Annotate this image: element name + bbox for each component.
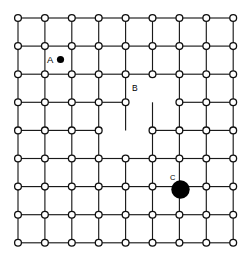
lattice-node [122, 211, 129, 218]
lattice-node [42, 99, 49, 106]
lattice-node [203, 239, 210, 246]
lattice-node [122, 183, 129, 190]
lattice-node [42, 183, 49, 190]
lattice-node [95, 99, 102, 106]
defect-label-b: B [132, 83, 138, 93]
lattice-node [176, 127, 183, 134]
substitutional-atom-c [171, 180, 189, 198]
lattice-node [95, 155, 102, 162]
lattice-node [122, 99, 129, 106]
lattice-node [122, 15, 129, 22]
lattice-node [15, 155, 22, 162]
lattice-node [176, 71, 183, 78]
lattice-node [203, 155, 210, 162]
lattice-node [176, 155, 183, 162]
defect-label-a: A [47, 54, 54, 65]
lattice-node [149, 211, 156, 218]
lattice-node [42, 239, 49, 246]
lattice-node [68, 211, 75, 218]
lattice-node [149, 239, 156, 246]
lattice-node [230, 127, 237, 134]
defect-label-c: C [170, 173, 176, 182]
lattice-node [15, 43, 22, 50]
lattice-node [95, 71, 102, 78]
lattice-node [176, 43, 183, 50]
lattice-node [68, 127, 75, 134]
lattice-node [15, 71, 22, 78]
lattice-node [95, 127, 102, 134]
lattice-node [15, 15, 22, 22]
lattice-node [230, 239, 237, 246]
lattice-node [68, 43, 75, 50]
lattice-node [68, 71, 75, 78]
lattice-node [68, 183, 75, 190]
lattice-node [176, 99, 183, 106]
interstitial-atom-a [57, 56, 64, 63]
lattice-node [95, 43, 102, 50]
lattice-node [122, 239, 129, 246]
lattice-node [68, 15, 75, 22]
lattice-node [95, 211, 102, 218]
lattice-node [122, 71, 129, 78]
lattice-node [122, 155, 129, 162]
nodes-layer [15, 15, 237, 247]
lattice-node [68, 99, 75, 106]
lattice-node [230, 211, 237, 218]
lattice-node [176, 211, 183, 218]
lattice-node [230, 155, 237, 162]
lattice-node [149, 127, 156, 134]
lattice-node [15, 239, 22, 246]
lattice-node [42, 127, 49, 134]
lattice-node [149, 71, 156, 78]
lattice-node [15, 127, 22, 134]
lattice-node [230, 43, 237, 50]
bonds-layer [18, 18, 233, 243]
lattice-node [122, 43, 129, 50]
lattice-node [42, 71, 49, 78]
lattice-node [95, 15, 102, 22]
lattice-node [68, 239, 75, 246]
lattice-node [203, 43, 210, 50]
lattice-node [230, 183, 237, 190]
lattice-node [95, 239, 102, 246]
lattice-node [15, 211, 22, 218]
lattice-node [203, 183, 210, 190]
lattice-node [203, 211, 210, 218]
lattice-node [68, 155, 75, 162]
lattice-node [15, 99, 22, 106]
lattice-node [176, 15, 183, 22]
lattice-node [203, 127, 210, 134]
lattice-node [149, 15, 156, 22]
lattice-node [42, 211, 49, 218]
lattice-node [203, 99, 210, 106]
lattice-figure: ABC [0, 0, 250, 264]
lattice-node [42, 15, 49, 22]
lattice-node [203, 71, 210, 78]
lattice-node [15, 183, 22, 190]
lattice-canvas: ABC [0, 0, 250, 264]
lattice-node [149, 155, 156, 162]
lattice-node [230, 15, 237, 22]
lattice-node [42, 43, 49, 50]
lattice-node [176, 239, 183, 246]
lattice-node [95, 183, 102, 190]
lattice-node [149, 183, 156, 190]
lattice-node [230, 99, 237, 106]
lattice-node [203, 15, 210, 22]
lattice-node [149, 43, 156, 50]
lattice-node [42, 155, 49, 162]
lattice-node [230, 71, 237, 78]
